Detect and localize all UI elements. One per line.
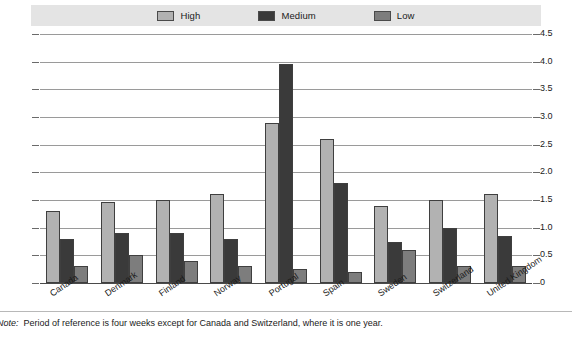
bar-medium <box>279 64 293 283</box>
bar-group <box>313 34 368 283</box>
chart-plot-wrapper: 000.50.51.01.01.51.52.02.02.52.53.03.03.… <box>0 26 572 288</box>
bar-high <box>320 139 334 283</box>
tick-stub-left <box>32 172 39 173</box>
legend-swatch-icon <box>258 11 275 21</box>
bar-high <box>484 194 498 283</box>
legend-entry-low: Low <box>374 10 415 21</box>
legend-entry-medium: Medium <box>258 10 315 21</box>
bar-high <box>101 202 115 283</box>
tick-stub-right <box>533 89 540 90</box>
bar-group <box>259 34 314 283</box>
y-axis-tick-right: 0 <box>540 278 570 287</box>
footnote-text: Period of reference is four weeks except… <box>24 318 383 328</box>
tick-stub-left <box>32 255 39 256</box>
bar-medium <box>334 183 348 283</box>
bar-group <box>95 34 150 283</box>
legend-label: High <box>180 10 200 21</box>
tick-stub-right <box>533 172 540 173</box>
tick-stub-left <box>32 117 39 118</box>
tick-stub-left <box>32 228 39 229</box>
legend-entry-high: High <box>157 10 200 21</box>
bar-group <box>368 34 423 283</box>
y-axis-tick-right: 1.0 <box>540 223 570 232</box>
tick-stub-right <box>533 200 540 201</box>
y-axis-tick-right: 2.5 <box>540 140 570 149</box>
tick-stub-right <box>533 117 540 118</box>
y-axis-tick-right: 4.5 <box>540 29 570 38</box>
bar-group <box>477 34 532 283</box>
bar-high <box>374 206 388 283</box>
tick-stub-right <box>533 283 540 284</box>
tick-stub-right <box>533 34 540 35</box>
bar-high <box>429 200 443 283</box>
y-axis-tick-right: 4.0 <box>540 57 570 66</box>
footnote-divider <box>0 311 572 312</box>
bar-high <box>265 123 279 283</box>
y-axis-tick-right: 1.5 <box>540 195 570 204</box>
footnote: Note:Period of reference is four weeks e… <box>0 318 572 328</box>
bar-low <box>348 272 362 283</box>
bar-high <box>156 200 170 283</box>
tick-stub-left <box>32 145 39 146</box>
bar-groups-layer <box>40 34 532 283</box>
bar-group <box>204 34 259 283</box>
y-axis-tick-right: 3.0 <box>540 112 570 121</box>
y-axis-tick-right: 3.5 <box>540 84 570 93</box>
chart-legend: HighMediumLow <box>31 5 541 26</box>
y-axis-tick-right: 2.0 <box>540 167 570 176</box>
tick-stub-left <box>32 283 39 284</box>
legend-swatch-icon <box>374 11 391 21</box>
legend-label: Medium <box>281 10 315 21</box>
bar-high <box>46 211 60 283</box>
tick-stub-left <box>32 62 39 63</box>
footnote-label: Note: <box>0 318 19 328</box>
tick-stub-left <box>32 89 39 90</box>
bar-high <box>210 194 224 283</box>
chart-plot-area: 000.50.51.01.01.51.52.02.02.52.53.03.03.… <box>40 34 532 283</box>
tick-stub-left <box>32 34 39 35</box>
legend-swatch-icon <box>157 11 174 21</box>
legend-label: Low <box>397 10 415 21</box>
tick-stub-right <box>533 145 540 146</box>
bar-group <box>423 34 478 283</box>
y-axis-tick-right: 0.5 <box>540 250 570 259</box>
tick-stub-left <box>32 200 39 201</box>
tick-stub-right <box>533 62 540 63</box>
bar-group <box>149 34 204 283</box>
bar-group <box>40 34 95 283</box>
tick-stub-right <box>533 228 540 229</box>
